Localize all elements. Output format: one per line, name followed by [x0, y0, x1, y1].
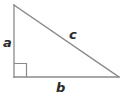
side-a-label: a	[3, 36, 12, 49]
right-triangle-diagram: a b c	[0, 0, 125, 99]
side-c-label: c	[69, 28, 77, 41]
side-b-label: b	[56, 81, 65, 94]
side-c-line	[14, 5, 119, 77]
right-angle-square-icon	[14, 64, 27, 78]
